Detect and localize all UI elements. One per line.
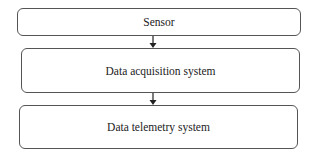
arrow-down-icon <box>150 36 157 48</box>
arrow-down-icon <box>150 93 157 105</box>
edges <box>0 0 316 156</box>
